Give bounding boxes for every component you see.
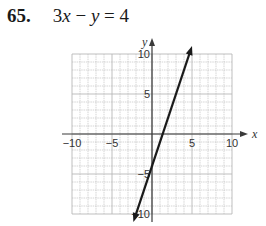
x-tick-label: −10 <box>63 137 82 149</box>
x-axis-arrow-icon <box>240 131 248 137</box>
x-axis-label: x <box>251 127 258 141</box>
graph: xy −10−5510105−5−10 <box>0 0 266 226</box>
y-tick-label: 5 <box>144 88 150 100</box>
y-axis-arrow-icon <box>149 38 155 46</box>
y-tick-label: 10 <box>138 48 150 60</box>
y-axis-label: y <box>141 35 148 49</box>
x-tick-label: 5 <box>189 137 195 149</box>
x-tick-label: −5 <box>106 137 119 149</box>
x-tick-label: 10 <box>226 137 238 149</box>
